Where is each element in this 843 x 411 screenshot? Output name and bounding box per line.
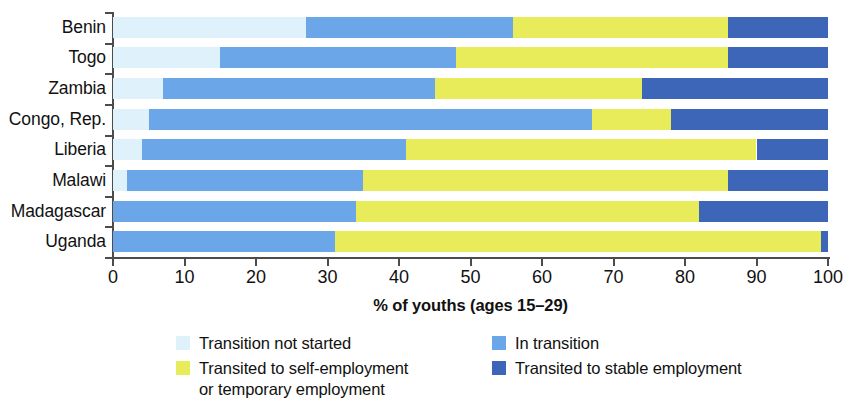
category-label-benin: Benin — [0, 17, 106, 38]
legend-label: In transition — [515, 333, 599, 354]
chart-legend: Transition not startedIn transitionTrans… — [176, 333, 836, 411]
x-axis-tick — [184, 259, 186, 266]
legend-label: Transited to stable employment — [515, 358, 742, 379]
table-row — [113, 139, 828, 160]
bar-segment — [821, 231, 828, 252]
table-row — [113, 231, 828, 252]
bar-segment — [149, 109, 592, 130]
bar-segment — [142, 139, 407, 160]
bar-segment — [113, 78, 163, 99]
category-label-congo-rep: Congo, Rep. — [0, 109, 106, 130]
x-axis-tick — [827, 259, 829, 266]
legend-item: Transition not started — [176, 333, 351, 354]
y-axis-tick — [105, 104, 113, 106]
bar-segment — [671, 109, 828, 130]
x-axis-tick — [613, 259, 615, 266]
bar-segment — [642, 78, 828, 99]
y-axis-tick — [105, 43, 113, 45]
bar-segment — [113, 231, 335, 252]
legend-item: Transited to self-employment or temporar… — [176, 358, 408, 400]
table-row — [113, 201, 828, 222]
x-axis-tick — [470, 259, 472, 266]
y-axis-tick — [105, 165, 113, 167]
x-axis-tick — [327, 259, 329, 266]
x-axis-tick-label: 80 — [675, 266, 695, 288]
x-axis-tick — [541, 259, 543, 266]
x-axis-tick — [398, 259, 400, 266]
x-axis-tick-label: 40 — [389, 266, 409, 288]
x-axis-tick-label: 90 — [746, 266, 766, 288]
table-row — [113, 47, 828, 68]
legend-swatch-icon — [176, 336, 190, 350]
table-row — [113, 17, 828, 38]
bar-segment — [113, 139, 142, 160]
legend-item: In transition — [492, 333, 599, 354]
category-label-uganda: Uganda — [0, 231, 106, 252]
table-row — [113, 109, 828, 130]
y-axis-tick — [105, 196, 113, 198]
bar-segment — [113, 170, 127, 191]
x-axis-tick-label: 100 — [813, 266, 843, 288]
y-axis-tick — [105, 135, 113, 137]
category-label-madagascar: Madagascar — [0, 201, 106, 222]
bar-segment — [513, 17, 728, 38]
bar-segment — [363, 170, 728, 191]
bar-segment — [592, 109, 671, 130]
y-axis-tick — [105, 226, 113, 228]
bar-segment — [699, 201, 828, 222]
bar-segment — [113, 17, 306, 38]
category-label-liberia: Liberia — [0, 139, 106, 160]
bar-segment — [113, 109, 149, 130]
table-row — [113, 78, 828, 99]
bar-segment — [456, 47, 728, 68]
x-axis-tick-label: 0 — [108, 266, 118, 288]
x-axis-tick — [255, 259, 257, 266]
legend-swatch-icon — [492, 361, 506, 375]
bar-segment — [113, 47, 220, 68]
bar-segment — [127, 170, 363, 191]
y-axis-tick — [105, 73, 113, 75]
bar-segment — [435, 78, 642, 99]
x-axis-tick-label: 20 — [246, 266, 266, 288]
legend-label: Transition not started — [199, 333, 351, 354]
x-axis-title: % of youths (ages 15–29) — [113, 296, 828, 315]
bar-segment — [306, 17, 513, 38]
y-axis-tick — [105, 12, 113, 14]
table-row — [113, 170, 828, 191]
x-axis-tick-label: 70 — [603, 266, 623, 288]
legend-label: Transited to self-employment or temporar… — [199, 358, 408, 400]
x-axis-tick-label: 60 — [532, 266, 552, 288]
plot-area — [113, 12, 828, 257]
bar-segment — [728, 47, 828, 68]
bar-segment — [335, 231, 821, 252]
bar-segment — [757, 139, 829, 160]
x-axis-tick-label: 30 — [317, 266, 337, 288]
x-axis-tick — [684, 259, 686, 266]
category-label-togo: Togo — [0, 47, 106, 68]
x-axis-tick-label: 10 — [174, 266, 194, 288]
bar-segment — [728, 17, 828, 38]
category-label-malawi: Malawi — [0, 170, 106, 191]
legend-item: Transited to stable employment — [492, 358, 742, 379]
category-label-zambia: Zambia — [0, 78, 106, 99]
bar-segment — [113, 201, 356, 222]
bar-segment — [220, 47, 456, 68]
bar-segment — [406, 139, 756, 160]
bar-segment — [163, 78, 435, 99]
legend-swatch-icon — [492, 336, 506, 350]
x-axis-tick — [756, 259, 758, 266]
bar-segment — [728, 170, 828, 191]
bar-segment — [356, 201, 699, 222]
y-axis-tick — [105, 257, 113, 259]
x-axis-tick — [112, 259, 114, 266]
category-axis-labels: BeninTogoZambiaCongo, Rep.LiberiaMalawiM… — [0, 12, 106, 257]
x-axis-tick-label: 50 — [460, 266, 480, 288]
legend-swatch-icon — [176, 361, 190, 375]
